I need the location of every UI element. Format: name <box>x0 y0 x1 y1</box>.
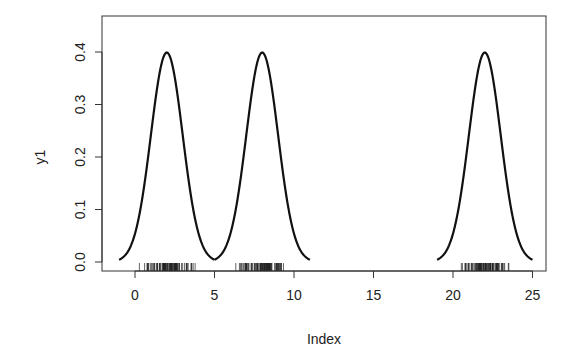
x-tick-label: 20 <box>445 287 461 303</box>
density-curve <box>437 53 532 260</box>
x-tick-label: 15 <box>366 287 382 303</box>
rug-ticks <box>139 263 508 271</box>
y-tick-label: 0.0 <box>72 252 88 272</box>
y-axis-title: y1 <box>32 149 48 164</box>
y-axis: 0.00.10.20.30.4 <box>72 42 102 272</box>
density-curves <box>119 53 532 260</box>
density-curve <box>119 53 214 260</box>
chart: 0510152025 0.00.10.20.30.4 Index y1 <box>0 0 571 364</box>
x-axis-title: Index <box>307 331 341 347</box>
x-tick-label: 10 <box>286 287 302 303</box>
y-tick-label: 0.1 <box>72 200 88 220</box>
y-tick-label: 0.2 <box>72 147 88 167</box>
y-tick-label: 0.4 <box>72 42 88 62</box>
x-tick-label: 25 <box>525 287 541 303</box>
x-tick-label: 0 <box>131 287 139 303</box>
x-tick-label: 5 <box>211 287 219 303</box>
density-curve <box>215 53 310 260</box>
y-tick-label: 0.3 <box>72 95 88 115</box>
x-axis: 0510152025 <box>131 271 540 303</box>
